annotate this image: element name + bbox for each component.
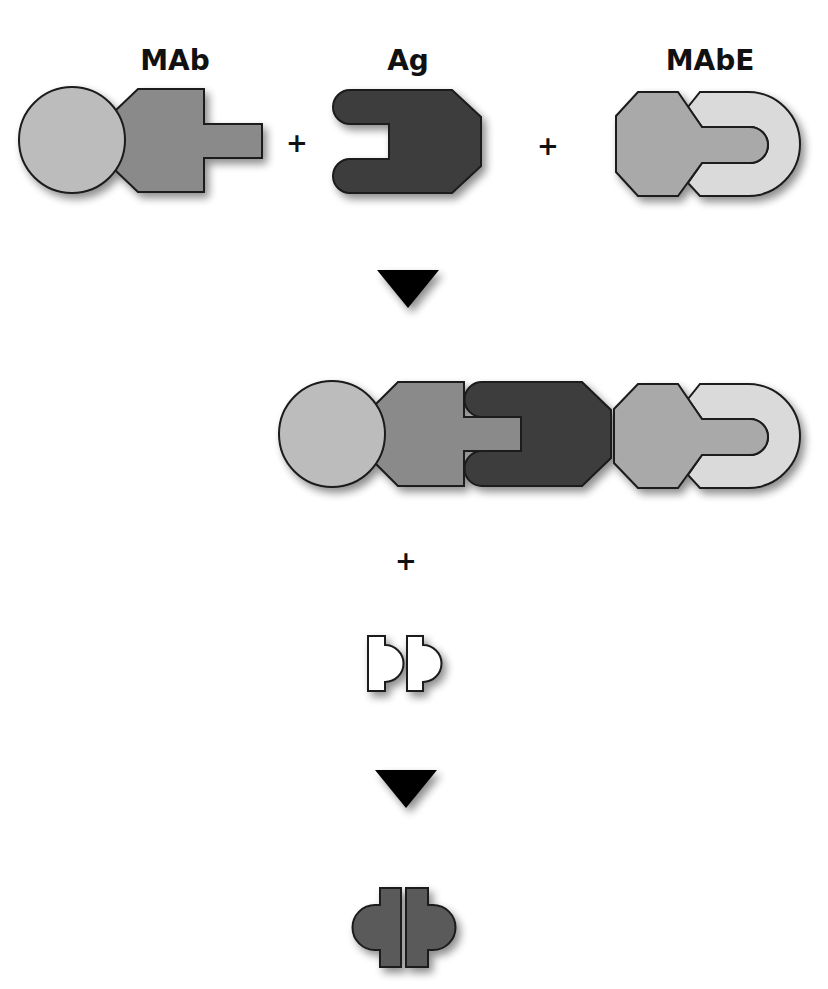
fragment-left-shape bbox=[368, 636, 404, 691]
mab-molecule bbox=[19, 87, 262, 193]
fragment-right-shape bbox=[407, 636, 442, 691]
down-arrow-icon bbox=[377, 270, 439, 308]
mab-circle-shape bbox=[19, 87, 125, 193]
complex-mab-circle-shape bbox=[279, 381, 385, 487]
mabe-molecule bbox=[616, 92, 800, 196]
ag-molecule bbox=[333, 90, 481, 193]
mab-body-shape bbox=[115, 89, 262, 192]
product-right-shape bbox=[406, 888, 456, 967]
ag-shape bbox=[333, 90, 481, 193]
complemented-enzyme bbox=[353, 888, 456, 967]
immune-complex bbox=[279, 381, 800, 488]
product-left-shape bbox=[353, 888, 401, 967]
diagram-canvas bbox=[0, 0, 828, 989]
down-arrow-icon-2 bbox=[375, 770, 437, 808]
enzyme-fragment-pair bbox=[368, 636, 442, 691]
